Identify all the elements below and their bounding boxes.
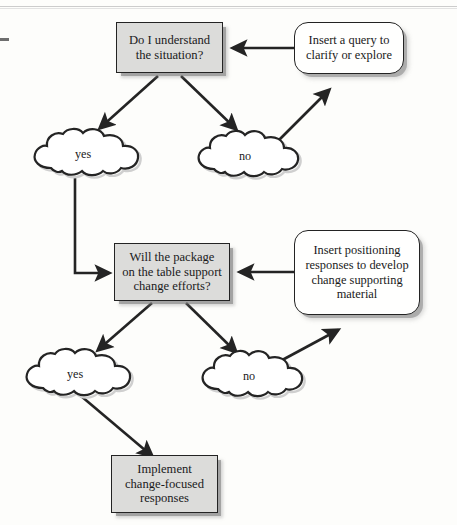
- node-package-supports-change[interactable]: Will the package on the table support ch…: [114, 243, 230, 301]
- arrow-understand-to-yes: [100, 76, 158, 128]
- arrow-yes-to-package-question: [75, 178, 109, 273]
- node-understand-situation-label: Do I understand the situation?: [129, 33, 210, 63]
- arrow-understand-to-no: [181, 76, 236, 129]
- node-implement-change-focused-responses-label: Implement change-focused responses: [125, 462, 204, 507]
- node-understand-situation[interactable]: Do I understand the situation?: [116, 22, 223, 73]
- arrow-package-question-to-no: [186, 303, 236, 352]
- node-implement-change-focused-responses[interactable]: Implement change-focused responses: [111, 455, 218, 513]
- node-no-package[interactable]: no: [196, 347, 310, 403]
- node-no-understand-label: no: [239, 149, 251, 163]
- node-insert-positioning-responses[interactable]: Insert positioning responses to develop …: [294, 230, 420, 315]
- node-yes-package-label: yes: [67, 367, 83, 381]
- arrow-yes-to-implement: [81, 396, 152, 456]
- node-yes-understand-label: yes: [75, 147, 91, 161]
- figure-canvas: Do I understand the situation? Insert a …: [0, 0, 457, 525]
- node-no-package-label: no: [243, 369, 255, 383]
- arrow-package-question-to-yes: [98, 303, 152, 350]
- node-yes-package[interactable]: yes: [20, 345, 138, 402]
- node-yes-understand[interactable]: yes: [28, 125, 146, 182]
- node-insert-query[interactable]: Insert a query to clarify or explore: [294, 22, 404, 74]
- node-insert-query-label: Insert a query to clarify or explore: [306, 33, 392, 62]
- node-no-understand[interactable]: no: [192, 127, 306, 183]
- node-insert-positioning-responses-label: Insert positioning responses to develop …: [305, 243, 408, 302]
- node-package-supports-change-label: Will the package on the table support ch…: [122, 250, 222, 295]
